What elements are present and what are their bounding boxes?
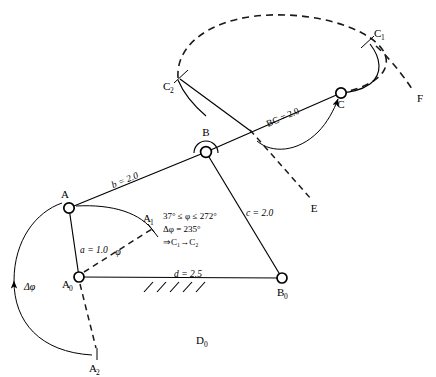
label-dim-bc: BC = 2.0 — [265, 106, 301, 129]
label-dim-a: a = 1.0 — [80, 245, 108, 255]
annotation-implication: ⇒C₁→C₂ — [163, 237, 198, 247]
joint-C — [336, 88, 346, 98]
label-dim-b: b = 2.0 — [110, 170, 140, 190]
label-delta-phi: Δφ — [23, 281, 36, 292]
coupler-curve-dashed — [178, 15, 386, 93]
label-phi: φ — [115, 246, 121, 257]
label-B0-sub: 0 — [284, 292, 288, 301]
radius-A0-A2 — [80, 284, 96, 348]
coupler-curve-lower-left — [178, 80, 206, 116]
label-E: E — [311, 202, 318, 214]
tick-C2 — [174, 70, 188, 83]
coupler-arc-solid — [341, 44, 379, 93]
label-C1-sub: 1 — [381, 33, 385, 42]
link-C2-to-B — [180, 79, 252, 132]
label-C: C — [337, 98, 344, 110]
label-A: A — [61, 188, 69, 200]
curve-tail-to-F — [376, 46, 414, 92]
label-D0-sub: 0 — [204, 340, 208, 349]
label-B: B — [202, 126, 209, 138]
label-C2-sub: 2 — [170, 86, 174, 95]
label-dim-c: c = 2.0 — [246, 208, 274, 218]
label-A1-sub: 1 — [150, 218, 154, 227]
annotation-phi-range: 37° ≤ φ ≤ 272° — [163, 211, 217, 221]
joint-B — [201, 147, 212, 158]
line-B-to-E — [250, 130, 312, 200]
delta-phi-arc — [14, 203, 62, 281]
diagram-canvas: A A 0 A 1 A 2 B B 0 C C 1 C 2 D 0 E F a … — [0, 0, 436, 377]
annotation-delta-phi: Δφ = 235° — [163, 224, 201, 234]
linkage-diagram: A A 0 A 1 A 2 B B 0 C C 1 C 2 D 0 E F a … — [0, 0, 436, 377]
joint-B0 — [277, 273, 287, 283]
joint-A — [64, 203, 74, 213]
label-D0: D — [196, 334, 204, 346]
label-F: F — [417, 92, 423, 104]
label-dim-d: d = 2.5 — [174, 269, 202, 279]
ground-hatching — [144, 282, 205, 292]
label-A0-sub: 0 — [69, 284, 73, 293]
label-A2-sub: 2 — [96, 368, 100, 377]
delta-phi-arc-lower — [14, 281, 92, 355]
link-a-crank — [69, 208, 79, 277]
joint-A0 — [74, 272, 84, 282]
